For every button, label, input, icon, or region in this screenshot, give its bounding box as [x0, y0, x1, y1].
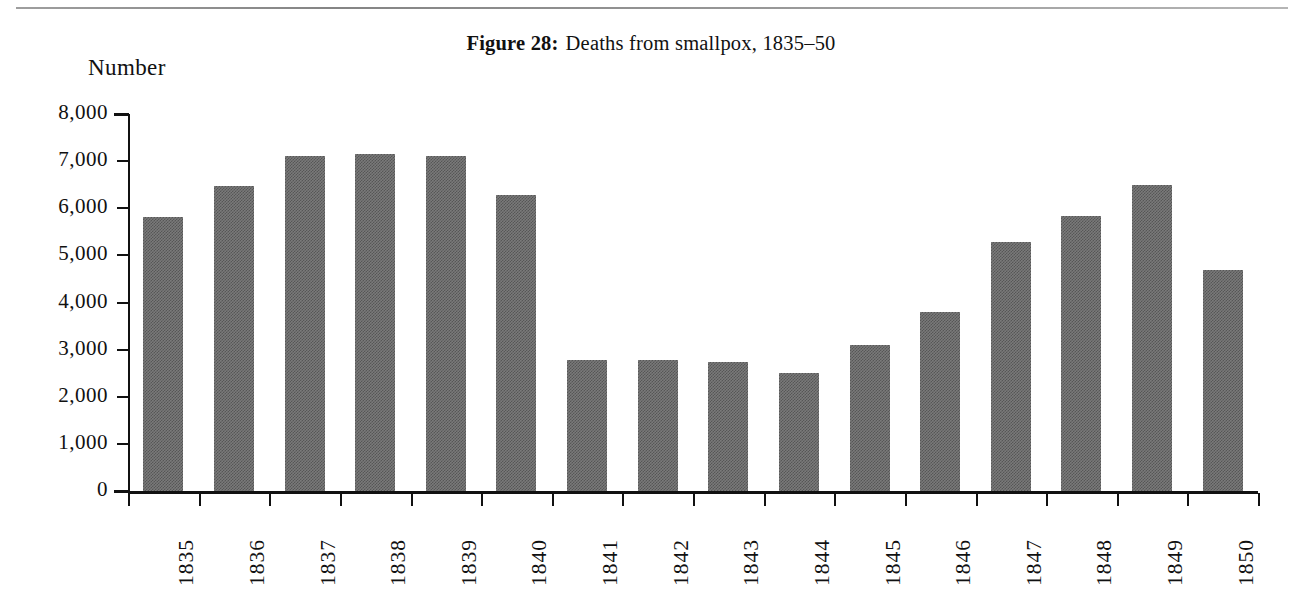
bar [850, 345, 890, 491]
x-axis-tick [1258, 493, 1260, 506]
bar [1061, 216, 1101, 491]
y-axis-tick-label: 8,000 [12, 100, 108, 125]
y-axis-tick-label: 7,000 [12, 147, 108, 172]
x-axis-tick [340, 493, 342, 506]
x-axis-tick-label: 1843 [739, 539, 764, 586]
y-axis-tick [117, 207, 129, 209]
x-axis-tick [622, 493, 624, 506]
x-axis-tick-label: 1835 [174, 539, 199, 586]
x-axis-tick-label: 1846 [951, 539, 976, 586]
x-axis-tick-label: 1849 [1163, 539, 1188, 586]
bar [426, 156, 466, 491]
y-axis-tick [117, 349, 129, 351]
bar [567, 360, 607, 491]
x-axis-tick-label: 1842 [669, 539, 694, 586]
x-axis-tick-label: 1839 [457, 539, 482, 586]
x-axis-tick-label: 1844 [810, 539, 835, 586]
y-axis-line [128, 114, 130, 494]
x-axis-tick [269, 493, 271, 506]
y-axis-tick [117, 160, 129, 162]
x-axis-tick [199, 493, 201, 506]
x-axis-tick-label: 1847 [1022, 539, 1047, 586]
x-axis-tick-label: 1837 [316, 539, 341, 586]
x-axis-tick [764, 493, 766, 506]
y-axis-tick [117, 302, 129, 304]
bar [638, 360, 678, 491]
bar [355, 154, 395, 491]
x-axis-tick [481, 493, 483, 506]
bar [1132, 185, 1172, 491]
x-axis-tick-label: 1848 [1092, 539, 1117, 586]
y-axis-tick-label: 2,000 [12, 383, 108, 408]
y-axis-tick-label: 4,000 [12, 289, 108, 314]
y-axis-tick [117, 396, 129, 398]
x-axis-tick [834, 493, 836, 506]
x-axis-tick-label: 1838 [386, 539, 411, 586]
bar [285, 156, 325, 491]
bar [920, 312, 960, 491]
y-axis-tick-label: 6,000 [12, 194, 108, 219]
y-axis-tick [114, 490, 129, 493]
x-axis-tick [905, 493, 907, 506]
y-axis-tick-label: 3,000 [12, 336, 108, 361]
x-axis-tick-label: 1850 [1234, 539, 1259, 586]
bar-chart-plot: 8,0007,0006,0005,0004,0003,0002,0001,000… [0, 0, 1302, 605]
x-axis-tick-label: 1845 [881, 539, 906, 586]
bar [214, 186, 254, 491]
x-axis-tick [1046, 493, 1048, 506]
bar [496, 195, 536, 491]
x-axis-tick [128, 493, 130, 506]
bar [991, 242, 1031, 491]
x-axis-tick [1187, 493, 1189, 506]
x-axis-tick [552, 493, 554, 506]
x-axis-tick-label: 1836 [245, 539, 270, 586]
y-axis-tick [117, 254, 129, 256]
bar [708, 362, 748, 491]
y-axis-tick-label: 0 [12, 477, 108, 502]
bar [779, 373, 819, 491]
x-axis-tick-label: 1841 [598, 539, 623, 586]
x-axis-tick [1117, 493, 1119, 506]
x-axis-tick [976, 493, 978, 506]
x-axis-tick-label: 1840 [527, 539, 552, 586]
y-axis-tick [117, 443, 129, 445]
x-axis-tick [411, 493, 413, 506]
y-axis-tick-label: 5,000 [12, 241, 108, 266]
y-axis-tick [114, 113, 129, 116]
y-axis-tick-label: 1,000 [12, 430, 108, 455]
bar [143, 217, 183, 491]
x-axis-tick [693, 493, 695, 506]
bar [1203, 270, 1243, 491]
